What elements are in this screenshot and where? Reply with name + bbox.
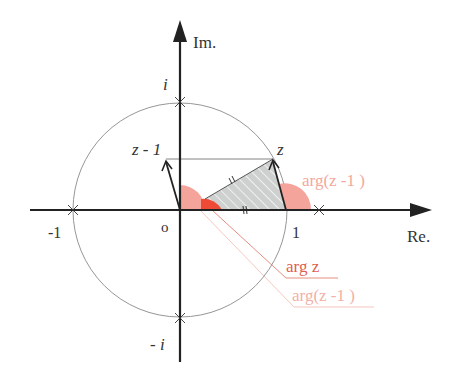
vector-z-minus-1 bbox=[166, 162, 180, 210]
imag-axis-arrow-icon bbox=[173, 20, 187, 42]
label-minus-one: -1 bbox=[48, 224, 61, 241]
complex-plane-diagram: Im. Re. o -1 1 i - i z z - 1 arg(z -1 ) … bbox=[0, 0, 462, 383]
annotation-arg-z-minus-1-bottom: arg(z -1 ) bbox=[292, 286, 355, 305]
label-i: i bbox=[163, 75, 168, 94]
real-axis-arrow-icon bbox=[410, 203, 432, 217]
label-one: 1 bbox=[292, 224, 300, 241]
real-axis-label: Re. bbox=[407, 227, 430, 246]
annotation-arg-z: arg z bbox=[286, 257, 320, 276]
label-z-minus-1: z - 1 bbox=[131, 140, 161, 159]
origin-label: o bbox=[161, 219, 169, 235]
imag-axis-label: Im. bbox=[193, 33, 216, 52]
annotation-arg-z-minus-1-top: arg(z -1 ) bbox=[302, 171, 365, 190]
label-minus-i: - i bbox=[150, 335, 165, 354]
label-z: z bbox=[276, 140, 284, 159]
